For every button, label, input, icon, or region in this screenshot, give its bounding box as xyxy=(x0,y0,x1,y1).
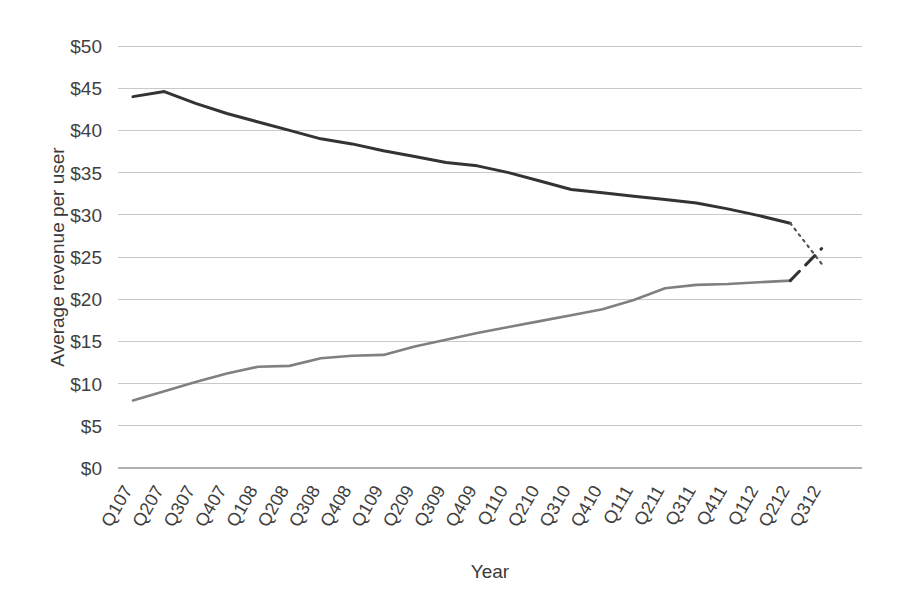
x-tick-label: Q211 xyxy=(630,482,669,529)
x-tick-label: Q210 xyxy=(504,482,543,530)
x-tick-label: Q410 xyxy=(567,482,606,530)
y-tick-label: $45 xyxy=(70,78,102,99)
y-tick-label: $40 xyxy=(70,120,102,141)
chart-container: $0$5$10$15$20$25$30$35$40$45$50 Q107Q207… xyxy=(0,0,915,610)
x-tick-label: Q411 xyxy=(692,482,731,529)
y-tick-label: $15 xyxy=(70,331,102,352)
x-tick-label: Q407 xyxy=(191,482,230,530)
y-tick-label: $0 xyxy=(81,458,102,479)
y-axis-title: Average revenue per user xyxy=(47,147,68,367)
x-tick-label: Q307 xyxy=(160,482,199,530)
x-axis-tick-labels: Q107Q207Q307Q407Q108Q208Q308Q408Q109Q209… xyxy=(97,482,825,530)
x-tick-label: Q209 xyxy=(379,482,418,530)
x-tick-label: Q311 xyxy=(661,482,700,529)
x-tick-label: Q212 xyxy=(754,482,793,530)
series-growing-revenue-actual xyxy=(133,281,790,401)
series-declining-revenue-actual xyxy=(133,92,790,224)
y-tick-label: $50 xyxy=(70,36,102,57)
data-series xyxy=(133,92,822,401)
series-declining-revenue-forecast xyxy=(790,223,821,264)
x-tick-label: Q208 xyxy=(254,482,293,530)
x-tick-label: Q309 xyxy=(410,482,449,530)
y-tick-label: $30 xyxy=(70,205,102,226)
y-tick-label: $5 xyxy=(81,416,102,437)
x-tick-label: Q408 xyxy=(316,482,355,530)
y-tick-label: $20 xyxy=(70,289,102,310)
x-tick-label: Q308 xyxy=(285,482,324,530)
x-tick-label: Q107 xyxy=(97,482,136,530)
y-tick-label: $35 xyxy=(70,163,102,184)
x-axis-title: Year xyxy=(471,561,510,582)
series-growing-revenue-forecast xyxy=(790,249,821,281)
x-tick-label: Q109 xyxy=(348,482,387,530)
line-chart: $0$5$10$15$20$25$30$35$40$45$50 Q107Q207… xyxy=(0,0,915,610)
x-tick-label: Q312 xyxy=(786,482,825,530)
x-tick-label: Q310 xyxy=(535,482,574,530)
x-tick-label: Q409 xyxy=(441,482,480,530)
y-tick-label: $10 xyxy=(70,374,102,395)
y-axis-tick-labels: $0$5$10$15$20$25$30$35$40$45$50 xyxy=(70,36,102,479)
y-tick-label: $25 xyxy=(70,247,102,268)
x-tick-label: Q207 xyxy=(128,482,167,530)
x-tick-label: Q108 xyxy=(222,482,261,530)
gridlines xyxy=(118,46,862,468)
